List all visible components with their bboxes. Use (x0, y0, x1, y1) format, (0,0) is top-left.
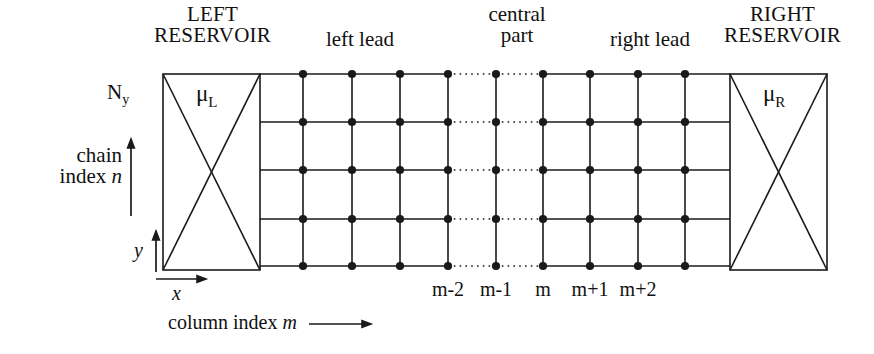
lattice-site-dot (539, 70, 547, 78)
column-index-symbol: m (282, 311, 296, 333)
lattice-diagram-svg (0, 0, 874, 354)
lattice-site-dot (396, 166, 404, 174)
central-part-line1: central (462, 4, 572, 25)
lattice-site-dot (681, 118, 689, 126)
lattice-site-dot (586, 166, 594, 174)
lattice-site-dot (492, 166, 500, 174)
column-index-arrow-head (362, 321, 371, 328)
column-tick-mplus2: m+2 (612, 279, 664, 299)
axis-x-label: x (172, 283, 181, 303)
column-index-text: column index (168, 311, 277, 333)
lattice-site-dot (348, 70, 356, 78)
lattice-site-dot (348, 166, 356, 174)
column-tick-m-2: m-2 (422, 279, 474, 299)
lattice-site-dot (348, 262, 356, 270)
lattice-site-dot (299, 262, 307, 270)
ny-label: Ny (107, 82, 129, 107)
left-reservoir-caption-line2: RESERVOIR (130, 25, 295, 46)
x-axis-arrow-head (197, 276, 206, 283)
lattice-site-dot (586, 70, 594, 78)
axis-x-symbol: x (172, 282, 181, 304)
lattice-site-dot (539, 262, 547, 270)
lattice-site-dot (396, 70, 404, 78)
lattice-site-dot (681, 70, 689, 78)
mu-left-symbol: μ (196, 81, 208, 106)
lattice-site-dot (444, 70, 452, 78)
chain-index-line1: chain (22, 145, 122, 166)
lattice-site-dot (444, 118, 452, 126)
lattice-site-dot (396, 215, 404, 223)
figure-canvas: LEFT RESERVOIR left lead central part ri… (0, 0, 874, 354)
ny-subscript: y (122, 92, 129, 107)
lattice-site-dot (681, 262, 689, 270)
central-part-caption: central part (462, 4, 572, 47)
lattice-site-dot (348, 118, 356, 126)
mu-right-symbol: μ (763, 81, 775, 106)
lattice-site-dot (444, 215, 452, 223)
column-tick-m: m (517, 279, 569, 299)
lattice-site-dot (299, 166, 307, 174)
lattice-site-dot (539, 215, 547, 223)
lattice-site-dot (348, 215, 356, 223)
left-reservoir-caption: LEFT RESERVOIR (130, 4, 295, 47)
column-tick-mplus1: m+1 (564, 279, 616, 299)
lattice-site-dot (444, 166, 452, 174)
column-tick-m-1: m-1 (470, 279, 522, 299)
lattice-site-dot (634, 262, 642, 270)
lattice-site-dot (299, 215, 307, 223)
lattice-site-dot (634, 118, 642, 126)
mu-left-label: μL (196, 82, 218, 110)
lattice-site-dot (539, 166, 547, 174)
lattice-site-dot (634, 215, 642, 223)
mu-left-subscript: L (208, 94, 217, 110)
lattice-site-dot (586, 215, 594, 223)
chain-index-arrow-head (128, 139, 135, 148)
lattice-site-dot (492, 118, 500, 126)
chain-index-symbol: n (112, 164, 123, 188)
lattice-site-dot (299, 70, 307, 78)
right-reservoir-caption-line1: RIGHT (700, 4, 865, 25)
lattice-site-dot (396, 118, 404, 126)
chain-index-word: index (60, 164, 107, 188)
chain-index-line2: index n (22, 166, 122, 187)
central-part-line2: part (462, 25, 572, 46)
lattice-site-dot (634, 70, 642, 78)
lattice-site-dot (634, 166, 642, 174)
axis-y-symbol: y (134, 239, 143, 261)
right-lead-caption: right lead (590, 29, 710, 50)
right-reservoir-caption: RIGHT RESERVOIR (700, 4, 865, 47)
mu-right-subscript: R (775, 94, 785, 110)
chain-index-label: chain index n (22, 145, 122, 188)
right-reservoir-caption-line2: RESERVOIR (700, 25, 865, 46)
y-axis-arrow-head (153, 231, 160, 240)
lattice-site-dot (299, 118, 307, 126)
lattice-site-dot (681, 215, 689, 223)
left-lead-label: left lead (305, 29, 415, 50)
axis-y-label: y (134, 240, 143, 260)
lattice-site-dot (492, 262, 500, 270)
left-lead-caption: left lead (305, 29, 415, 50)
ny-symbol: N (107, 80, 122, 104)
lattice-site-dot (396, 262, 404, 270)
lattice-site-dot (492, 70, 500, 78)
lattice-site-dot (444, 262, 452, 270)
column-index-caption: column index m (168, 312, 297, 332)
lattice-site-dot (681, 166, 689, 174)
right-lead-label: right lead (590, 29, 710, 50)
mu-right-label: μR (763, 82, 785, 110)
lattice-site-dot (586, 118, 594, 126)
lattice-site-dot (586, 262, 594, 270)
lattice-site-dot (492, 215, 500, 223)
left-reservoir-caption-line1: LEFT (130, 4, 295, 25)
lattice-site-dot (539, 118, 547, 126)
